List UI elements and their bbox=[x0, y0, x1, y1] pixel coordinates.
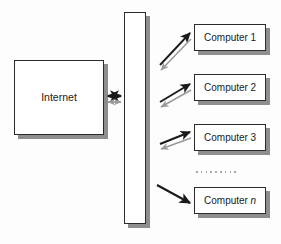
computer-node-label: Computer bbox=[204, 133, 248, 143]
ellipsis-dot bbox=[230, 171, 232, 173]
computer-node-2[interactable]: Computer 2 bbox=[194, 74, 266, 101]
computer-node-index: 2 bbox=[248, 83, 256, 93]
computer-node-index: n bbox=[248, 196, 256, 206]
computer-node-n[interactable]: Computer n bbox=[194, 187, 266, 214]
network-diagram-canvas: Internet Computer 1 Computer 2 Computer … bbox=[0, 0, 281, 244]
connector-firewall-computer-2 bbox=[160, 84, 191, 107]
connector-firewall-computer-n bbox=[157, 185, 190, 203]
ellipsis-dot bbox=[206, 171, 208, 173]
internet-node-label: Internet bbox=[41, 92, 77, 103]
ellipsis-dot bbox=[196, 171, 198, 173]
ellipsis-dot bbox=[234, 171, 236, 173]
computer-node-1[interactable]: Computer 1 bbox=[194, 24, 266, 51]
computer-node-index: 1 bbox=[248, 33, 256, 43]
internet-node[interactable]: Internet bbox=[14, 60, 104, 135]
computer-node-label: Computer bbox=[204, 33, 248, 43]
computer-node-label: Computer bbox=[204, 83, 248, 93]
ellipsis-dot bbox=[220, 171, 222, 173]
ellipsis-dot bbox=[215, 171, 217, 173]
computer-node-index: 3 bbox=[248, 133, 256, 143]
firewall-node[interactable] bbox=[124, 12, 146, 224]
computer-node-label: Computer bbox=[204, 196, 248, 206]
connector-firewall-computer-3 bbox=[160, 132, 191, 149]
ellipsis-indicator bbox=[196, 168, 236, 176]
ellipsis-dot bbox=[210, 171, 212, 173]
connector-internet-firewall bbox=[108, 96, 121, 102]
ellipsis-dot bbox=[201, 171, 203, 173]
ellipsis-dot bbox=[225, 171, 227, 173]
computer-node-3[interactable]: Computer 3 bbox=[194, 124, 266, 151]
connector-firewall-computer-1 bbox=[160, 33, 191, 70]
